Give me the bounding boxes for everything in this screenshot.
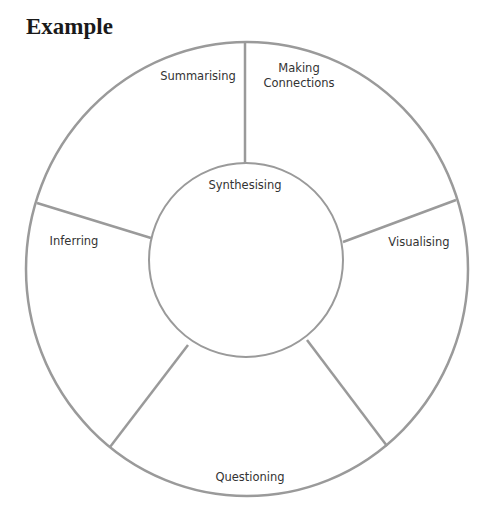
- divider-left: [37, 203, 151, 238]
- segment-label-inferring: Inferring: [50, 234, 99, 249]
- segment-label-making-connections: Making Connections: [263, 61, 334, 91]
- segment-label-summarising: Summarising: [160, 69, 236, 84]
- segment-label-visualising: Visualising: [388, 235, 449, 250]
- reading-strategies-wheel: [0, 0, 490, 510]
- center-label-synthesising: Synthesising: [208, 178, 281, 193]
- segment-label-questioning: Questioning: [215, 470, 284, 485]
- outer-circle: [26, 42, 468, 496]
- divider-lower-right: [307, 340, 387, 446]
- divider-lower-left: [110, 345, 188, 447]
